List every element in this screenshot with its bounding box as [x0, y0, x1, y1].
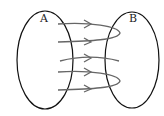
set-b-label: B — [129, 12, 137, 25]
set-a-label: A — [39, 12, 49, 25]
mapping-diagram: A B — [0, 0, 164, 116]
arrow-loop-top — [58, 23, 120, 42]
arrowhead-icon — [84, 54, 91, 62]
